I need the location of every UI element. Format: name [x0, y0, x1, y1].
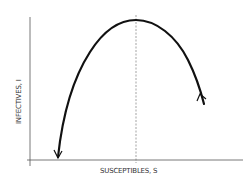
- x-axis-label: SUSCEPTIBLES, S: [100, 167, 158, 175]
- phase-plane-diagram: INFECTIVES, I SUSCEPTIBLES, S: [0, 0, 250, 184]
- y-axis-label: INFECTIVES, I: [15, 79, 23, 124]
- trajectory-curve: [58, 20, 204, 157]
